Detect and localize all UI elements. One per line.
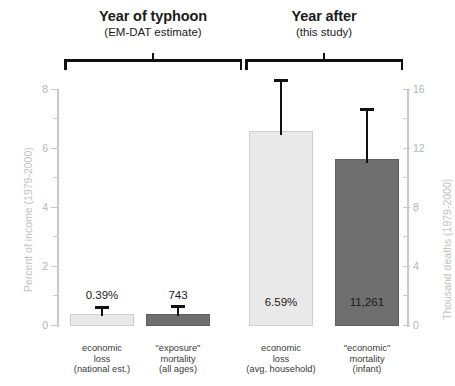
bar-value-label-4: 11,261 (335, 296, 399, 309)
bracket-leg-left (245, 59, 248, 70)
chart-figure: Year of typhoon (EM-DAT estimate) Year a… (0, 0, 455, 386)
right-tick-8 (403, 207, 410, 208)
group-subtitle: (EM-DAT estimate) (63, 25, 243, 39)
category-label-line1: economic (62, 343, 142, 354)
error-bar-line-4 (366, 108, 369, 163)
bracket-leg-right (240, 59, 243, 70)
left-tick-0 (51, 325, 58, 326)
right-tick-0 (403, 325, 410, 326)
right-tick-label-0: 0 (413, 320, 439, 331)
left-tick-label-2: 2 (22, 261, 48, 272)
category-label-2: "exposure" mortality (all ages) (138, 343, 218, 375)
group-bracket-left (64, 53, 242, 65)
right-minor-tick-6 (403, 236, 407, 237)
bracket-bar (64, 59, 242, 62)
category-label-line1: economic (236, 343, 326, 354)
left-tick-4 (51, 207, 58, 208)
left-tick-8 (51, 89, 58, 90)
right-minor-tick-2 (403, 295, 407, 296)
category-label-line2: loss (62, 354, 142, 365)
error-bar-cap-1 (95, 306, 109, 309)
bracket-leg-left (64, 59, 67, 70)
category-label-line3: (avg. household) (236, 364, 326, 375)
left-minor-tick-5 (53, 177, 57, 178)
left-minor-tick-3 (53, 236, 57, 237)
left-tick-label-0: 0 (22, 320, 48, 331)
right-tick-label-16: 16 (413, 84, 439, 95)
group-header-year-after: Year after (this study) (245, 8, 403, 39)
category-label-line2: loss (236, 354, 326, 365)
error-bar-line-3 (280, 79, 283, 135)
category-label-line3: (all ages) (138, 364, 218, 375)
bracket-leg-right (401, 59, 404, 70)
left-tick-label-8: 8 (22, 84, 48, 95)
right-minor-tick-10 (403, 177, 407, 178)
category-label-line2: mortality (327, 354, 407, 365)
group-subtitle: (this study) (245, 25, 403, 39)
left-minor-tick-7 (53, 118, 57, 119)
right-axis-title: Thousand deaths (1979-2000) (441, 179, 453, 320)
right-tick-label-8: 8 (413, 202, 439, 213)
error-bar-cap-4 (360, 108, 374, 111)
bar-value-label-1: 0.39% (70, 289, 134, 302)
bar-value-label-2: 743 (146, 289, 210, 302)
right-tick-4 (403, 266, 410, 267)
group-title: Year of typhoon (63, 8, 243, 25)
group-header-year-of-typhoon: Year of typhoon (EM-DAT estimate) (63, 8, 243, 39)
category-label-1: economic loss (national est.) (62, 343, 142, 375)
category-label-3: economic loss (avg. household) (236, 343, 326, 375)
error-bar-cap-2 (171, 305, 185, 308)
category-label-line1: "economic" (327, 343, 407, 354)
bar-value-label-3: 6.59% (249, 296, 313, 309)
group-title: Year after (245, 8, 403, 25)
category-label-4: "economic" mortality (infant) (327, 343, 407, 375)
right-minor-tick-14 (403, 118, 407, 119)
category-label-line2: mortality (138, 354, 218, 365)
bracket-bar (245, 59, 403, 62)
left-tick-2 (51, 266, 58, 267)
left-tick-6 (51, 148, 58, 149)
left-tick-label-4: 4 (22, 202, 48, 213)
category-label-line3: (infant) (327, 364, 407, 375)
right-tick-label-12: 12 (413, 143, 439, 154)
left-minor-tick-1 (53, 295, 57, 296)
right-tick-label-4: 4 (413, 261, 439, 272)
category-label-line3: (national est.) (62, 364, 142, 375)
left-tick-label-6: 6 (22, 143, 48, 154)
category-label-line1: "exposure" (138, 343, 218, 354)
right-tick-12 (403, 148, 410, 149)
group-bracket-right (245, 53, 403, 65)
right-tick-16 (403, 89, 410, 90)
error-bar-cap-3 (274, 79, 288, 82)
